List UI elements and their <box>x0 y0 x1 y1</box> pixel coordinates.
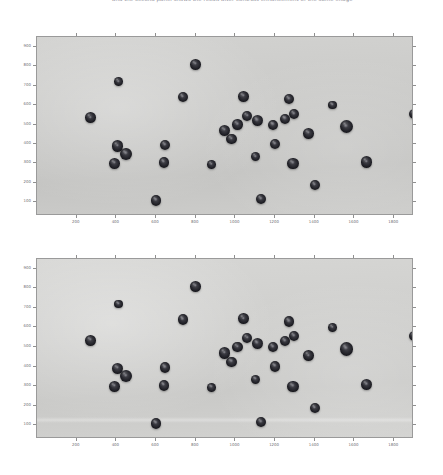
x-axis-tick <box>234 438 235 441</box>
y-axis-tick <box>33 326 36 327</box>
berry-object <box>226 357 236 367</box>
y-axis-tick-right <box>413 424 416 425</box>
y-axis-tick <box>33 307 36 308</box>
image-canvas <box>37 259 412 437</box>
plot-area-original-image <box>36 36 413 215</box>
y-axis-tick-right <box>413 124 416 125</box>
y-axis-tick-label: 800 <box>18 285 31 289</box>
x-axis-tick-top <box>234 33 235 36</box>
berry-object <box>256 194 266 204</box>
y-axis-tick-right <box>413 326 416 327</box>
berry-object <box>85 112 96 123</box>
berry-object <box>287 158 298 169</box>
berry-object <box>109 381 120 392</box>
y-axis-tick <box>33 346 36 347</box>
x-axis-tick-top <box>314 33 315 36</box>
x-axis-tick <box>274 215 275 218</box>
x-axis-tick <box>76 215 77 218</box>
x-axis-tick <box>155 215 156 218</box>
y-axis-tick-right <box>413 385 416 386</box>
berry-object <box>160 362 170 372</box>
berry-object <box>207 160 216 169</box>
y-axis-tick <box>33 268 36 269</box>
x-axis-tick-label: 1400 <box>309 443 319 447</box>
x-axis-tick <box>353 438 354 441</box>
x-axis-tick-label: 800 <box>191 443 198 447</box>
berry-object <box>219 347 231 359</box>
x-axis-tick <box>234 215 235 218</box>
y-axis-tick-label: 800 <box>18 63 31 67</box>
x-axis-tick <box>274 438 275 441</box>
y-axis-tick-label: 400 <box>18 141 31 145</box>
y-axis-tick <box>33 182 36 183</box>
x-axis-tick-top <box>115 33 116 36</box>
y-axis-tick-label: 200 <box>18 403 31 407</box>
berry-object <box>85 335 96 346</box>
y-axis-tick-label: 300 <box>18 383 31 387</box>
y-axis-tick <box>33 104 36 105</box>
x-axis-tick-top <box>393 33 394 36</box>
y-axis-tick <box>33 385 36 386</box>
x-axis-tick-label: 1800 <box>388 443 398 447</box>
berry-object <box>238 313 249 324</box>
berry-object <box>287 381 298 392</box>
berry-object <box>268 342 278 352</box>
light-streak <box>37 417 412 423</box>
panel-original-image: 2004006008001000120014001600180010020030… <box>0 0 443 238</box>
x-axis-tick-top <box>155 255 156 258</box>
x-axis-tick-top <box>195 255 196 258</box>
panel-contrast-enhanced-image: 2004006008001000120014001600180010020030… <box>0 222 443 475</box>
berry-object <box>303 128 314 139</box>
x-axis-tick <box>393 438 394 441</box>
berry-object <box>328 323 337 332</box>
berry-object <box>226 134 236 144</box>
berry-object <box>190 281 201 292</box>
berry-object <box>112 363 123 374</box>
x-axis-tick <box>353 215 354 218</box>
y-axis-tick-right <box>413 405 416 406</box>
x-axis-tick-top <box>274 33 275 36</box>
x-axis-tick-top <box>393 255 394 258</box>
y-axis-tick-label: 900 <box>18 266 31 270</box>
y-axis-tick-label: 100 <box>18 199 31 203</box>
berry-object <box>112 140 123 151</box>
y-axis-tick <box>33 46 36 47</box>
x-axis-tick <box>155 438 156 441</box>
x-axis-tick <box>115 438 116 441</box>
berry-object <box>256 417 266 427</box>
berry-object <box>159 157 170 168</box>
berry-object <box>361 156 373 168</box>
y-axis-tick <box>33 65 36 66</box>
x-axis-tick-top <box>314 255 315 258</box>
x-axis-tick-top <box>234 255 235 258</box>
y-axis-tick <box>33 143 36 144</box>
berry-object <box>310 180 320 190</box>
x-axis-tick-label: 1600 <box>349 443 359 447</box>
y-axis-tick-right <box>413 366 416 367</box>
x-axis-tick-top <box>115 255 116 258</box>
berry-object <box>114 300 123 309</box>
y-axis-tick-label: 500 <box>18 344 31 348</box>
berry-object <box>242 111 252 121</box>
y-axis-tick-right <box>413 65 416 66</box>
y-axis-tick <box>33 201 36 202</box>
berry-object <box>252 338 263 349</box>
y-axis-tick-right <box>413 287 416 288</box>
x-axis-tick <box>393 215 394 218</box>
y-axis-tick-right <box>413 307 416 308</box>
x-axis-tick-label: 600 <box>151 443 158 447</box>
berry-object <box>159 380 170 391</box>
x-axis-tick <box>314 438 315 441</box>
y-axis-tick-label: 100 <box>18 422 31 426</box>
y-axis-tick-right <box>413 201 416 202</box>
y-axis-tick-label: 700 <box>18 83 31 87</box>
x-axis-tick-top <box>155 33 156 36</box>
berry-object <box>151 195 162 206</box>
x-axis-tick <box>314 215 315 218</box>
berry-object <box>232 342 242 352</box>
y-axis-tick <box>33 405 36 406</box>
y-axis-tick-label: 300 <box>18 160 31 164</box>
x-axis-tick-label: 1000 <box>229 443 239 447</box>
berry-object <box>178 314 188 324</box>
y-axis-tick-label: 600 <box>18 102 31 106</box>
